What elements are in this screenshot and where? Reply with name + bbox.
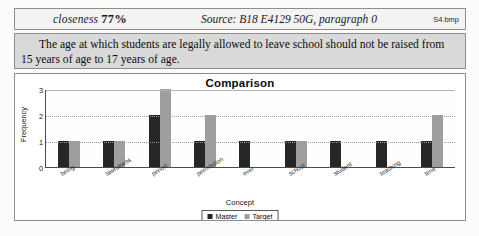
plot-area bbox=[45, 90, 455, 168]
figure-panel: closeness 77% Source: B18 E4129 50G, par… bbox=[14, 8, 466, 224]
y-axis-ticks: 3210 bbox=[29, 90, 43, 168]
closeness-value: 77% bbox=[101, 12, 127, 26]
header-box: closeness 77% Source: B18 E4129 50G, par… bbox=[14, 8, 466, 30]
filename-label: S4.bmp bbox=[433, 15, 459, 24]
x-tick-label: teaching bbox=[364, 170, 410, 196]
closeness-label: closeness bbox=[53, 13, 98, 25]
bar-master bbox=[421, 141, 432, 167]
legend-label-master: Master bbox=[216, 212, 238, 221]
bar-master bbox=[285, 141, 296, 167]
bar-group bbox=[228, 90, 273, 167]
bar-master bbox=[194, 141, 205, 167]
paragraph-box: The age at which students are legally al… bbox=[14, 33, 466, 69]
legend-label-target: Target bbox=[252, 212, 272, 221]
x-tick-label: period bbox=[136, 170, 182, 196]
x-tick-label: student bbox=[318, 170, 364, 196]
bar-group bbox=[46, 90, 91, 167]
x-tick-label: ever bbox=[227, 170, 273, 196]
legend-swatch-master bbox=[208, 214, 213, 219]
gridline-1 bbox=[46, 142, 455, 143]
bar-group bbox=[137, 90, 182, 167]
bar-master bbox=[330, 141, 341, 167]
bar-group bbox=[91, 90, 136, 167]
bar-master bbox=[239, 141, 250, 167]
source-citation: Source: B18 E4129 50G, paragraph 0 bbox=[201, 13, 377, 25]
bar-group bbox=[319, 90, 364, 167]
x-axis-tick-labels: beinglawfulnessperiodpermissioneverschoo… bbox=[45, 170, 455, 196]
legend-swatch-target bbox=[244, 214, 249, 219]
bar-target bbox=[160, 89, 171, 167]
legend-item-master: Master bbox=[208, 212, 238, 221]
legend-item-target: Target bbox=[244, 212, 272, 221]
bar-group bbox=[364, 90, 409, 167]
chart-legend: MasterTarget bbox=[202, 210, 279, 221]
y-tick-2: 2 bbox=[39, 112, 43, 121]
chart-panel: Comparison Frequency 3210 beinglawfulnes… bbox=[14, 73, 466, 221]
x-axis-title: Concept bbox=[15, 198, 465, 207]
gridline-2 bbox=[46, 116, 455, 117]
y-tick-3: 3 bbox=[39, 86, 43, 95]
bar-master bbox=[149, 115, 160, 167]
y-tick-0: 0 bbox=[39, 164, 43, 173]
closeness-readout: closeness 77% bbox=[53, 12, 127, 27]
bar-target bbox=[432, 115, 443, 167]
x-tick-label: school bbox=[273, 170, 319, 196]
y-axis-title: Frequency bbox=[19, 107, 28, 142]
bar-group bbox=[410, 90, 455, 167]
paragraph-text: The age at which students are legally al… bbox=[21, 38, 457, 67]
x-tick-label: permission bbox=[182, 170, 228, 196]
x-tick-label: being bbox=[45, 170, 91, 196]
y-tick-1: 1 bbox=[39, 138, 43, 147]
chart-title: Comparison bbox=[15, 77, 465, 89]
bar-master bbox=[376, 141, 387, 167]
x-tick-label: time bbox=[410, 170, 456, 196]
bar-master bbox=[103, 141, 114, 167]
plot-wrapper: Frequency 3210 beinglawfulnessperiodperm… bbox=[15, 90, 465, 220]
bar-groups bbox=[46, 90, 455, 167]
x-tick-label: lawfulness bbox=[91, 170, 137, 196]
bar-group bbox=[273, 90, 318, 167]
bar-master bbox=[58, 141, 69, 167]
gridline-3 bbox=[46, 90, 455, 91]
